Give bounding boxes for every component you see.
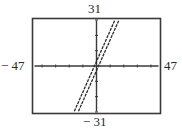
axes — [35, 20, 159, 112]
graph-window — [0, 0, 182, 129]
